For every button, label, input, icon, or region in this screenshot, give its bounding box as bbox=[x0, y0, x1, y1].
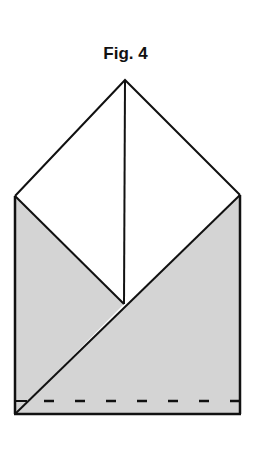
center-vertical-crease bbox=[124, 80, 125, 304]
folding-diagram bbox=[0, 0, 259, 463]
top-left-edge bbox=[15, 80, 240, 196]
